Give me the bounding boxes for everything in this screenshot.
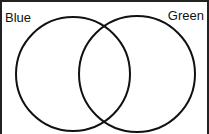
set-circle-green — [79, 16, 195, 132]
set-label-blue: Blue — [5, 11, 31, 24]
set-label-green: Green — [168, 9, 204, 22]
set-circle-blue — [16, 17, 130, 131]
